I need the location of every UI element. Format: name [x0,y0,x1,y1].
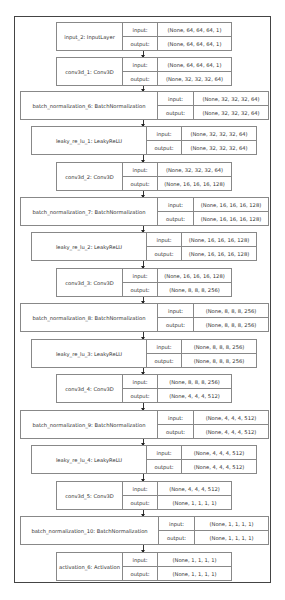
input-label: input: [147,446,181,459]
layer-name: leaky_re_lu_2: LeakyReLU [32,233,147,260]
output-label: output: [158,211,193,225]
layer-node-leakyrelu: leaky_re_lu_4: LeakyReLU input:output: (… [31,445,257,474]
layer-name: batch_normalization_6: BatchNormalizatio… [21,92,158,119]
layer-name: batch_normalization_8: BatchNormalizatio… [21,304,158,331]
layer-node-batchnorm: batch_normalization_8: BatchNormalizatio… [20,303,269,332]
output-label: output: [158,317,193,331]
layer-name: leaky_re_lu_4: LeakyReLU [32,446,147,473]
output-shape: (None, 1, 1, 1, 1) [158,495,231,509]
input-label: input: [158,304,193,317]
output-label: output: [123,176,157,190]
output-shape: (None, 4, 4, 4, 512) [194,424,268,438]
layer-node-conv3d: conv3d_4: Conv3D input:output: (None, 8,… [56,374,232,403]
input-label: input: [158,411,193,424]
input-label: input: [123,553,157,566]
arrow-connector [143,545,144,552]
layer-name: batch_normalization_10: BatchNormalizati… [21,517,159,544]
input-label: input: [158,92,193,105]
layer-node-conv3d: conv3d_3: Conv3D input:output: (None, 16… [56,268,232,297]
input-shape: (None, 64, 64, 64, 1) [158,58,231,71]
input-shape: (None, 32, 32, 32, 64) [158,163,231,176]
input-shape: (None, 4, 4, 4, 512) [182,446,256,459]
input-label: input: [123,482,157,495]
arrow-connector [143,332,144,339]
input-shape: (None, 16, 16, 16, 128) [194,198,268,211]
arrow-connector [143,261,144,268]
layer-name: activation_6: Activation [57,553,123,580]
input-label: input: [123,58,157,71]
layer-node-conv3d: conv3d_5: Conv3D input:output: (None, 4,… [56,481,232,510]
layer-name: conv3d_5: Conv3D [57,482,123,509]
output-shape: (None, 4, 4, 4, 512) [182,459,256,473]
output-shape: (None, 1, 1, 1, 1) [195,530,268,544]
output-label: output: [147,246,181,260]
layer-node-conv3d: conv3d_1: Conv3D input:output: (None, 64… [56,57,232,86]
layer-name: leaky_re_lu_3: LeakyReLU [32,340,147,367]
output-shape: (None, 16, 16, 16, 128) [182,246,256,260]
layer-node-activation: activation_6: Activation input:output: (… [56,552,232,581]
output-label: output: [123,566,157,580]
layer-node-batchnorm: batch_normalization_9: BatchNormalizatio… [20,410,269,439]
layer-name: batch_normalization_9: BatchNormalizatio… [21,411,158,438]
output-shape: (None, 32, 32, 32, 64) [182,140,256,154]
output-shape: (None, 32, 32, 32, 64) [158,71,231,85]
layer-node-batchnorm: batch_normalization_6: BatchNormalizatio… [20,91,269,120]
input-shape: (None, 8, 8, 8, 256) [194,304,268,317]
input-shape: (None, 1, 1, 1, 1) [195,517,268,530]
input-label: input: [147,127,181,140]
input-shape: (None, 32, 32, 32, 64) [194,92,268,105]
arrow-connector [143,155,144,162]
input-label: input: [147,233,181,246]
output-label: output: [158,105,193,119]
output-label: output: [123,71,157,85]
input-shape: (None, 32, 32, 32, 64) [182,127,256,140]
layer-node-leakyrelu: leaky_re_lu_1: LeakyReLU input:output: (… [31,126,257,155]
output-shape: (None, 64, 64, 64, 1) [158,36,231,50]
layer-name: conv3d_2: Conv3D [57,163,123,190]
layer-name: conv3d_4: Conv3D [57,375,123,402]
layer-node-batchnorm: batch_normalization_10: BatchNormalizati… [20,516,269,545]
layer-name: conv3d_1: Conv3D [57,58,123,85]
input-shape: (None, 8, 8, 8, 256) [158,375,231,388]
input-label: input: [158,198,193,211]
output-label: output: [147,459,181,473]
input-label: input: [159,517,194,530]
arrow-connector [143,474,144,481]
layer-name: batch_normalization_7: BatchNormalizatio… [21,198,158,225]
output-shape: (None, 8, 8, 8, 256) [194,317,268,331]
input-label: input: [123,23,157,36]
output-label: output: [147,353,181,367]
layer-node-conv3d: conv3d_2: Conv3D input:output: (None, 32… [56,162,232,191]
output-shape: (None, 8, 8, 8, 256) [182,353,256,367]
layer-node-leakyrelu: leaky_re_lu_3: LeakyReLU input:output: (… [31,339,257,368]
output-shape: (None, 16, 16, 16, 128) [158,176,231,190]
input-label: input: [123,269,157,282]
input-label: input: [123,163,157,176]
output-shape: (None, 4, 4, 4, 512) [158,388,231,402]
layer-name: input_2: InputLayer [57,23,123,50]
input-label: input: [147,340,181,353]
output-label: output: [123,36,157,50]
input-shape: (None, 4, 4, 4, 512) [194,411,268,424]
input-shape: (None, 8, 8, 8, 256) [182,340,256,353]
arrow-connector [143,403,144,410]
output-label: output: [123,388,157,402]
layer-node-leakyrelu: leaky_re_lu_2: LeakyReLU input:output: (… [31,232,257,261]
output-label: output: [123,282,157,296]
input-shape: (None, 16, 16, 16, 128) [158,269,231,282]
input-label: input: [123,375,157,388]
output-label: output: [123,495,157,509]
input-shape: (None, 64, 64, 64, 1) [158,23,231,36]
output-shape: (None, 16, 16, 16, 128) [194,211,268,225]
input-shape: (None, 4, 4, 4, 512) [158,482,231,495]
output-shape: (None, 32, 32, 32, 64) [194,105,268,119]
layer-name: conv3d_3: Conv3D [57,269,123,296]
output-shape: (None, 1, 1, 1, 1) [158,566,231,580]
input-shape: (None, 16, 16, 16, 128) [182,233,256,246]
layer-name: leaky_re_lu_1: LeakyReLU [32,127,147,154]
output-label: output: [158,424,193,438]
output-label: output: [147,140,181,154]
layer-node-input: input_2: InputLayer input:output: (None,… [56,22,232,51]
layer-node-batchnorm: batch_normalization_7: BatchNormalizatio… [20,197,269,226]
output-shape: (None, 8, 8, 8, 256) [158,282,231,296]
